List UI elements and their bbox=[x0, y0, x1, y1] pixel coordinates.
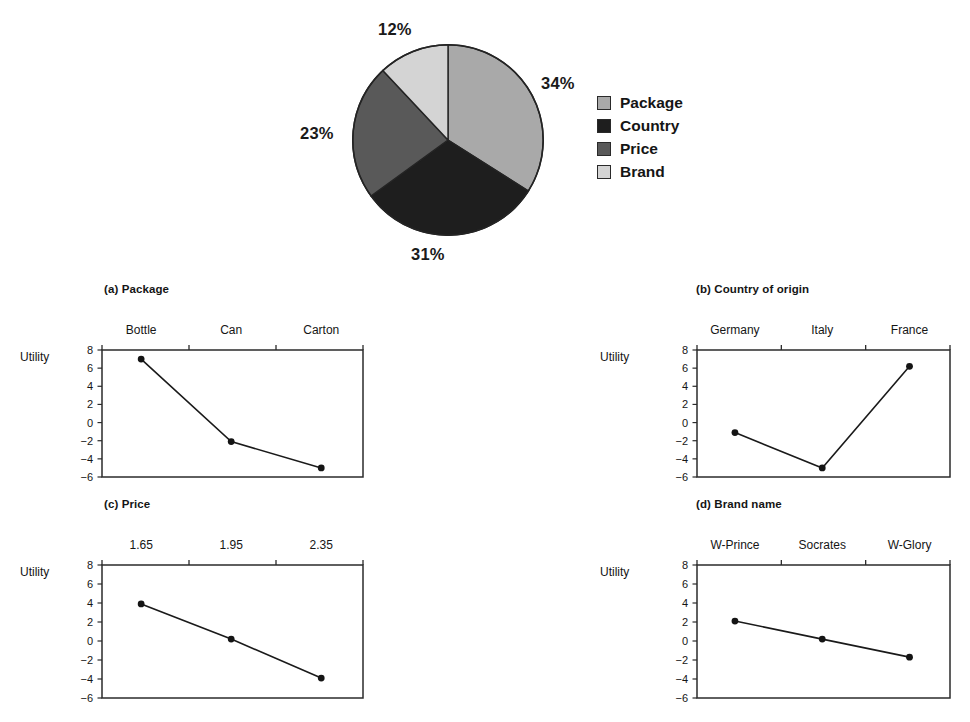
data-point-0 bbox=[138, 601, 145, 608]
pie-chart bbox=[351, 43, 545, 237]
legend-item-package: Package bbox=[597, 92, 683, 114]
line-panel-package: (a) Package Utility BottleCanCarton 8642… bbox=[0, 283, 400, 493]
utility-line bbox=[141, 359, 321, 468]
legend-swatch-country bbox=[597, 119, 611, 133]
data-point-2 bbox=[318, 675, 325, 682]
line-panel-brand: (d) Brand name Utility W-PrinceSocratesW… bbox=[596, 498, 970, 713]
pie-label-package: 34% bbox=[541, 74, 575, 93]
pie-chart-svg bbox=[351, 43, 545, 237]
legend-swatch-brand bbox=[597, 165, 611, 179]
data-point-0 bbox=[732, 618, 739, 625]
panel-plot-d bbox=[596, 498, 970, 713]
utility-line bbox=[735, 366, 910, 468]
data-point-2 bbox=[318, 465, 325, 472]
legend-label-country: Country bbox=[620, 118, 679, 134]
pie-label-price: 23% bbox=[300, 124, 334, 143]
data-point-0 bbox=[138, 356, 145, 363]
panel-plot-a bbox=[0, 283, 400, 493]
legend-swatch-package bbox=[597, 96, 611, 110]
plot-frame bbox=[102, 350, 363, 477]
data-point-2 bbox=[906, 654, 913, 661]
legend-swatch-price bbox=[597, 142, 611, 156]
data-point-1 bbox=[819, 465, 826, 472]
pie-legend: Package Country Price Brand bbox=[597, 92, 683, 184]
legend-item-brand: Brand bbox=[597, 161, 683, 183]
panel-plot-b bbox=[596, 283, 970, 493]
plot-frame bbox=[697, 565, 950, 698]
data-point-1 bbox=[228, 636, 235, 643]
legend-item-country: Country bbox=[597, 115, 683, 137]
legend-label-price: Price bbox=[620, 141, 658, 157]
panel-plot-c bbox=[0, 498, 400, 713]
legend-label-brand: Brand bbox=[620, 164, 665, 180]
legend-label-package: Package bbox=[620, 95, 683, 111]
line-panel-country: (b) Country of origin Utility GermanyIta… bbox=[596, 283, 970, 493]
data-point-2 bbox=[906, 363, 913, 370]
legend-item-price: Price bbox=[597, 138, 683, 160]
plot-frame bbox=[697, 350, 950, 477]
pie-label-country: 31% bbox=[411, 245, 445, 264]
pie-label-brand: 12% bbox=[378, 20, 412, 39]
figure-canvas: 12% 34% 31% 23% Package Country Price Br… bbox=[0, 0, 970, 722]
line-panel-price: (c) Price Utility 1.651.952.35 86420−2−4… bbox=[0, 498, 400, 713]
data-point-1 bbox=[228, 438, 235, 445]
data-point-1 bbox=[819, 636, 826, 643]
data-point-0 bbox=[732, 429, 739, 436]
